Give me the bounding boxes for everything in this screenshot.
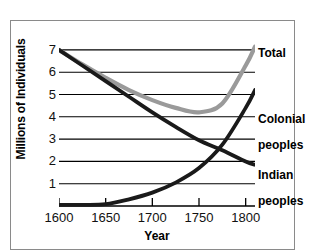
- series-line-colonial-peoples: [59, 90, 255, 205]
- y-tick-1: 1: [42, 177, 56, 190]
- plot-area: [59, 41, 255, 206]
- x-tick-label-1800: 1800: [224, 210, 268, 225]
- series-label-indian-peoples: Indian peoples: [258, 156, 303, 208]
- x-axis-tick-labels: 1600 1650 1700 1750 1800: [59, 210, 255, 226]
- x-axis-title: Year: [59, 229, 255, 243]
- plot-svg: [59, 41, 255, 216]
- y-tick-3: 3: [42, 132, 56, 145]
- series-label-total: Total: [258, 34, 286, 60]
- x-tick-label-1600: 1600: [37, 210, 81, 225]
- y-tick-4: 4: [42, 110, 56, 123]
- x-tick-label-1700: 1700: [130, 210, 174, 225]
- series-label-colonial-line2: peoples: [258, 138, 303, 152]
- y-axis-tick-labels: 7 6 5 4 3 2 1: [38, 41, 56, 206]
- series-label-colonial-peoples: Colonial peoples: [258, 100, 305, 152]
- x-tick-label-1750: 1750: [177, 210, 221, 225]
- series-label-total-text: Total: [258, 46, 286, 60]
- y-tick-7: 7: [42, 43, 56, 56]
- y-tick-6: 6: [42, 65, 56, 78]
- y-axis-title: Millions of Individuals: [14, 34, 28, 164]
- x-tick-label-1650: 1650: [84, 210, 128, 225]
- series-label-indian-line1: Indian: [258, 168, 293, 182]
- y-tick-5: 5: [42, 88, 56, 101]
- series-label-colonial-line1: Colonial: [258, 112, 305, 126]
- series-line-total: [59, 47, 255, 113]
- series-label-indian-line2: peoples: [258, 194, 303, 208]
- population-chart-figure: Millions of Individuals 7 6 5 4 3 2 1: [0, 0, 330, 250]
- y-tick-2: 2: [42, 154, 56, 167]
